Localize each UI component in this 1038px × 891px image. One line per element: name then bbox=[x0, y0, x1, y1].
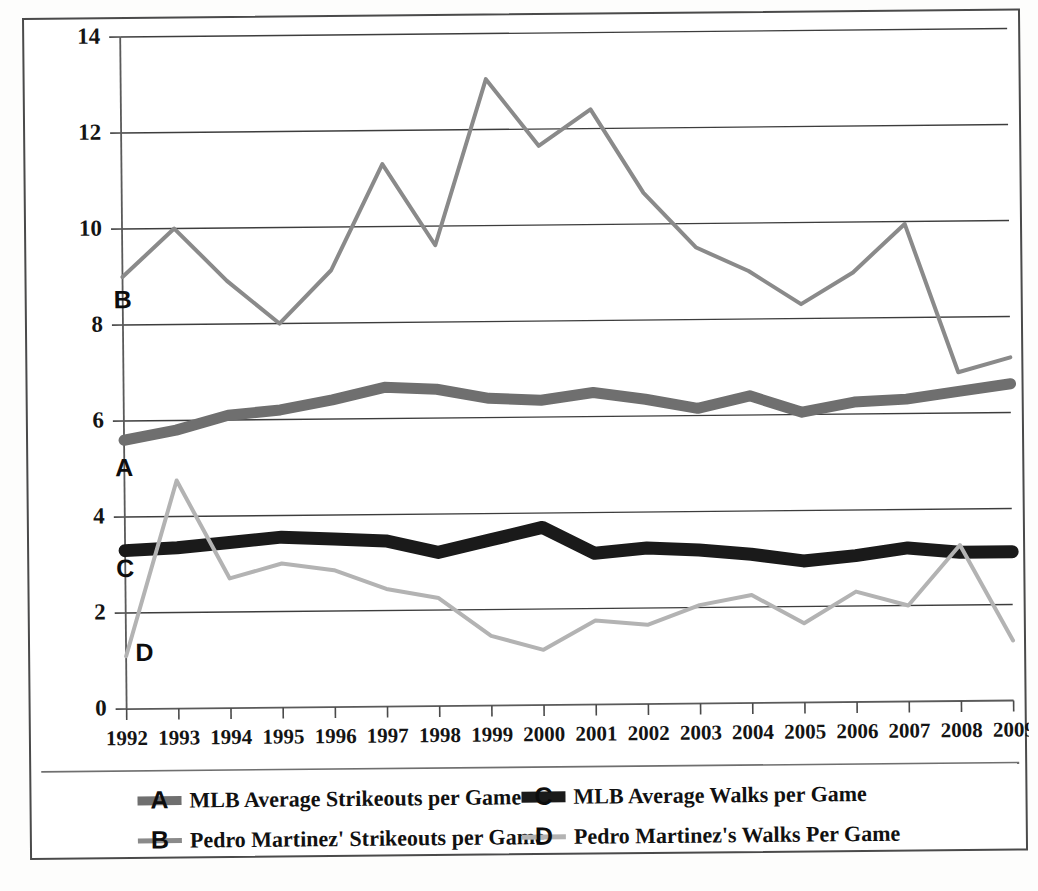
legend-letter-D: D bbox=[535, 822, 553, 850]
y-axis-tick-label: 12 bbox=[78, 120, 101, 145]
x-axis-tick-label: 2005 bbox=[784, 719, 826, 743]
line-chart: 0246810121419921993199419951996199719981… bbox=[24, 10, 1030, 862]
plot-area-wrapper: 0246810121419921993199419951996199719981… bbox=[24, 10, 1030, 862]
y-axis-tick-label: 8 bbox=[91, 312, 103, 337]
legend-letter-C: C bbox=[534, 782, 552, 810]
gridline-8 bbox=[123, 317, 1010, 326]
y-axis-tick-label: 4 bbox=[93, 504, 105, 529]
x-axis-tick-label: 2006 bbox=[836, 719, 878, 743]
x-axis-tick-label: 2009 bbox=[993, 717, 1030, 741]
x-axis-tick-label: 2007 bbox=[888, 718, 930, 742]
gridline-10 bbox=[122, 221, 1009, 230]
legend-separator bbox=[41, 762, 1019, 771]
series-tag-D: D bbox=[135, 638, 153, 666]
legend-label-D: Pedro Martinez's Walks Per Game bbox=[574, 821, 901, 849]
legend-label-C: MLB Average Walks per Game bbox=[573, 781, 867, 809]
legend-letter-B: B bbox=[151, 825, 169, 853]
x-axis-tick-label: 2000 bbox=[523, 722, 565, 746]
x-axis-tick-label: 2001 bbox=[575, 721, 617, 745]
series-tag-C: C bbox=[116, 554, 134, 582]
legend-item-C[interactable]: CMLB Average Walks per Game bbox=[521, 779, 867, 810]
x-axis-tick-label: 1997 bbox=[367, 723, 409, 747]
series-group bbox=[121, 74, 1013, 656]
x-axis-tick-label: 1995 bbox=[262, 724, 304, 748]
x-axis-tick-label: 1993 bbox=[158, 725, 200, 749]
legend-letter-A: A bbox=[150, 785, 168, 813]
x-axis-tick-label: 2004 bbox=[732, 720, 775, 744]
legend-item-A[interactable]: AMLB Average Strikeouts per Game bbox=[137, 782, 521, 814]
y-axis-tick-label: 0 bbox=[95, 696, 107, 721]
x-axis-tick-label: 1999 bbox=[471, 722, 513, 746]
y-axis-line bbox=[120, 37, 126, 709]
y-axis-tick-label: 10 bbox=[79, 216, 102, 241]
x-axis-tick-label: 2002 bbox=[628, 721, 670, 745]
series-tag-A: A bbox=[115, 453, 133, 481]
legend-label-B: Pedro Martinez' Strikeouts per Game bbox=[190, 824, 545, 852]
x-axis-line bbox=[127, 701, 1014, 710]
series-tags-group: BACD bbox=[114, 285, 154, 666]
gridlines-group: 02468101214 bbox=[77, 15, 1014, 721]
series-line-C[interactable] bbox=[125, 523, 1012, 568]
legend-item-B[interactable]: BPedro Martinez' Strikeouts per Game bbox=[138, 822, 545, 854]
gridline-4 bbox=[125, 509, 1012, 518]
series-tag-B: B bbox=[114, 285, 132, 313]
series-line-A[interactable] bbox=[124, 381, 1011, 440]
x-axis-tick-label: 1992 bbox=[106, 726, 148, 750]
gridline-14 bbox=[120, 29, 1007, 38]
series-line-D[interactable] bbox=[124, 473, 1013, 657]
x-axis-tick-label: 1996 bbox=[314, 724, 356, 748]
y-axis-tick-label: 6 bbox=[92, 408, 104, 433]
y-axis-tick-label: 2 bbox=[94, 600, 106, 625]
y-axis-tick-label: 14 bbox=[77, 24, 101, 49]
x-axis-tick-label: 1998 bbox=[419, 723, 461, 747]
legend-item-D[interactable]: DPedro Martinez's Walks Per Game bbox=[522, 818, 901, 850]
gridline-2 bbox=[126, 605, 1013, 614]
legend-group: AMLB Average Strikeouts per GameCMLB Ave… bbox=[137, 778, 900, 853]
chart-page: 0246810121419921993199419951996199719981… bbox=[0, 0, 1038, 891]
x-axis-tick-label: 1994 bbox=[210, 725, 253, 749]
chart-figure-frame: 0246810121419921993199419951996199719981… bbox=[22, 8, 1028, 860]
x-axis-tick-label: 2003 bbox=[680, 720, 722, 744]
legend-label-A: MLB Average Strikeouts per Game bbox=[189, 784, 521, 812]
x-axis-tick-label: 2008 bbox=[941, 718, 983, 742]
